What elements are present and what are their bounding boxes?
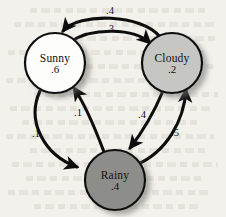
node-cloudy[interactable] [142,33,202,93]
edge-cloudy-to-sunny [63,18,160,37]
edge-rainy-to-sunny [74,88,104,152]
state-diagram-canvas [0,0,226,217]
node-group [25,33,202,210]
node-rainy[interactable] [85,150,145,210]
edge-sunny-to-cloudy [70,31,150,43]
diagram-page: Sunny .6 Cloudy .2 Rainy .4 .4 .3 .1 .1 … [0,0,226,217]
edge-sunny-to-rainy [35,91,77,167]
edge-cloudy-to-rainy [130,91,163,148]
node-sunny[interactable] [25,33,85,93]
